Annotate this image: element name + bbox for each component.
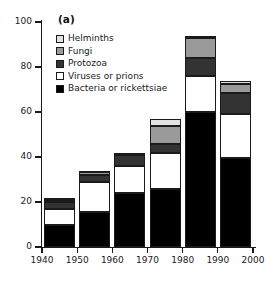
bar-segment-helminths	[220, 81, 251, 84]
bar-segment-protozoa	[44, 202, 75, 209]
x-axis-tick	[217, 248, 218, 253]
bar-segment-bacteria-or-rickettsiae	[114, 193, 145, 247]
bar-segment-helminths	[185, 36, 216, 38]
x-axis-tick	[182, 248, 183, 253]
bar-1990	[220, 0, 251, 247]
bar-segment-protozoa	[150, 144, 181, 153]
bar-segment-helminths	[79, 171, 110, 173]
bar-segment-fungi	[150, 126, 181, 144]
y-axis-tick-label: 60	[0, 107, 32, 116]
legend-item-label: Bacteria or rickettsiae	[68, 84, 167, 93]
bar-segment-viruses-or-prions	[44, 209, 75, 225]
y-axis-tick-label: 40	[0, 152, 32, 161]
bar-segment-bacteria-or-rickettsiae	[79, 212, 110, 247]
bar-segment-fungi	[185, 38, 216, 58]
bar-segment-bacteria-or-rickettsiae	[185, 112, 216, 247]
legend-swatch-icon	[56, 85, 64, 93]
bar-segment-helminths	[44, 198, 75, 200]
bar-segment-bacteria-or-rickettsiae	[220, 158, 251, 247]
legend-swatch-icon	[56, 47, 64, 55]
x-axis-tick-label: 1940	[22, 256, 62, 265]
bar-segment-protozoa	[185, 58, 216, 76]
legend-item: Helminths	[56, 33, 167, 44]
y-axis-tick	[35, 111, 41, 112]
x-axis-tick	[41, 248, 42, 253]
bar-segment-viruses-or-prions	[185, 76, 216, 112]
bar-segment-viruses-or-prions	[220, 114, 251, 158]
bar-segment-bacteria-or-rickettsiae	[44, 225, 75, 248]
legend-item-label: Protozoa	[68, 59, 107, 68]
legend-item-label: Helminths	[68, 34, 114, 43]
y-axis-tick-label: 80	[0, 62, 32, 71]
x-axis-tick-label: 1950	[57, 256, 97, 265]
y-axis-tick	[35, 246, 41, 247]
legend-item-label: Viruses or prions	[68, 72, 144, 81]
x-axis-tick-label: 1960	[92, 256, 132, 265]
bar-segment-fungi	[220, 84, 251, 93]
chart-figure: (a) 020406080100 19401950196019701980199…	[0, 0, 270, 292]
bar-segment-helminths	[150, 119, 181, 126]
legend-item-label: Fungi	[68, 47, 92, 56]
legend-item: Bacteria or rickettsiae	[56, 83, 167, 94]
legend-item: Viruses or prions	[56, 71, 167, 82]
y-axis-tick-label: 20	[0, 197, 32, 206]
x-axis-tick	[77, 248, 78, 253]
y-axis-tick-label: 100	[0, 17, 32, 26]
legend-item: Fungi	[56, 46, 167, 57]
x-axis-tick-label: 1990	[198, 256, 238, 265]
bar-segment-protozoa	[220, 93, 251, 114]
y-axis-line	[41, 20, 42, 249]
bar-segment-viruses-or-prions	[150, 153, 181, 189]
y-axis-tick	[35, 21, 41, 22]
x-axis-tick-label: 2000	[233, 256, 270, 265]
x-axis-tick	[147, 248, 148, 253]
y-axis-tick-label: 0	[0, 242, 32, 251]
bar-1980	[185, 0, 216, 247]
bar-segment-viruses-or-prions	[114, 166, 145, 193]
y-axis-tick	[35, 156, 41, 157]
chart-legend: HelminthsFungiProtozoaViruses or prionsB…	[56, 33, 167, 94]
bar-segment-bacteria-or-rickettsiae	[150, 189, 181, 248]
x-axis-tick	[252, 248, 253, 253]
bar-segment-protozoa	[114, 155, 145, 166]
legend-swatch-icon	[56, 72, 64, 80]
legend-swatch-icon	[56, 60, 64, 68]
x-axis-tick-label: 1970	[128, 256, 168, 265]
x-axis-tick	[112, 248, 113, 253]
bar-segment-helminths	[114, 153, 145, 155]
legend-item: Protozoa	[56, 58, 167, 69]
bar-segment-fungi	[44, 200, 75, 202]
y-axis-tick	[35, 201, 41, 202]
bar-segment-viruses-or-prions	[79, 182, 110, 212]
x-axis-tick-label: 1980	[163, 256, 203, 265]
legend-swatch-icon	[56, 35, 64, 43]
y-axis-tick	[35, 66, 41, 67]
bar-segment-protozoa	[79, 175, 110, 182]
